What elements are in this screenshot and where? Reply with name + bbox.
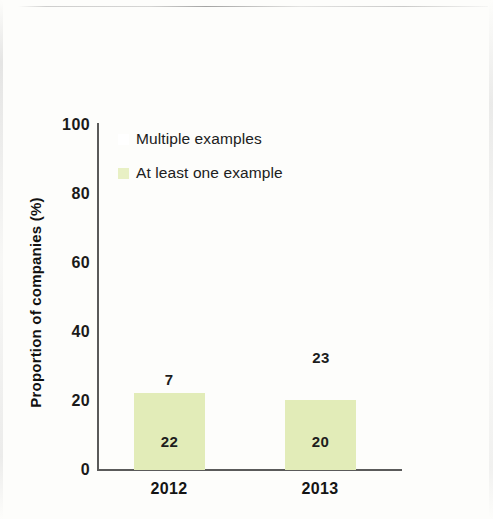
- bar-2012: 22: [134, 393, 205, 470]
- y-tick-20: 20: [44, 393, 90, 409]
- legend-label-atleast: At least one example: [136, 164, 283, 182]
- legend-item-multiple-examples: Multiple examples: [118, 126, 368, 152]
- bar-2013-inside-label: 20: [285, 433, 356, 450]
- y-axis-tick-labels: 100 80 60 40 20 0: [36, 0, 90, 519]
- y-tick-80: 80: [44, 186, 90, 202]
- legend-swatch-icon-atleast: [118, 168, 129, 179]
- scan-artifact-left-edge: [0, 0, 3, 519]
- bar-2012-inside-label: 22: [134, 433, 205, 450]
- chart-legend: Multiple examples At least one example: [118, 126, 368, 194]
- y-tick-0: 0: [44, 462, 90, 478]
- legend-label-multiple: Multiple examples: [136, 130, 262, 148]
- bar-2012-above-label: 7: [129, 371, 209, 388]
- y-tick-40: 40: [44, 324, 90, 340]
- y-tick-60: 60: [44, 255, 90, 271]
- bar-2013-above-label: 23: [281, 349, 361, 366]
- legend-swatch-icon-multiple: [118, 134, 129, 145]
- x-tick-2012: 2012: [114, 480, 224, 498]
- scan-artifact-right-edge: [489, 0, 493, 519]
- bar-2013: 20: [285, 400, 356, 470]
- bar-chart-figure: Proportion of companies (%) 100 80 60 40…: [0, 0, 493, 519]
- y-axis-line: [97, 123, 99, 471]
- y-tick-100: 100: [44, 117, 90, 133]
- legend-item-at-least-one-example: At least one example: [118, 160, 368, 186]
- x-tick-2013: 2013: [265, 480, 375, 498]
